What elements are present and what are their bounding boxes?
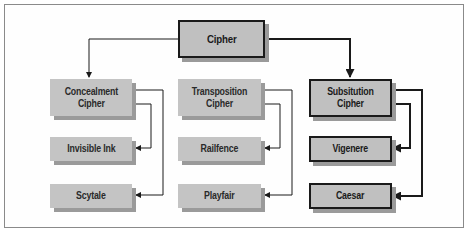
edge-transposition-railfence [265, 104, 280, 148]
node-substitution-cipher-label: Subsitution Cipher [327, 86, 373, 110]
node-scytale-label: Scytale [76, 190, 106, 202]
node-vigenere-label: Vigenere [333, 143, 369, 155]
node-invisible-ink-label: Invisible Ink [67, 143, 115, 155]
node-concealment-cipher: Concealment Cipher [50, 79, 132, 116]
edge-substitution-caesar [392, 90, 422, 196]
node-cipher: Cipher [178, 20, 265, 58]
node-vigenere: Vigenere [309, 136, 392, 162]
node-railfence: Railfence [178, 137, 261, 161]
node-transposition-cipher: Transposition Cipher [178, 79, 261, 116]
node-railfence-label: Railfence [201, 143, 239, 155]
node-caesar-label: Caesar [336, 190, 364, 202]
node-transposition-cipher-label: Transposition Cipher [192, 86, 247, 110]
edge-concealment-scytale [136, 90, 163, 195]
node-cipher-label: Cipher [207, 33, 237, 45]
node-substitution-cipher: Subsitution Cipher [309, 79, 392, 117]
node-scytale: Scytale [50, 184, 132, 208]
edge-transposition-playfair [265, 90, 292, 195]
edge-cipher-substitution [265, 39, 350, 77]
edge-concealment-invisible-ink [136, 104, 151, 148]
node-caesar: Caesar [309, 183, 392, 209]
edge-cipher-concealment [89, 39, 178, 77]
node-invisible-ink: Invisible Ink [50, 137, 132, 161]
edge-substitution-vigenere [392, 104, 410, 148]
node-playfair: Playfair [178, 184, 261, 208]
node-playfair-label: Playfair [204, 190, 234, 202]
node-concealment-cipher-label: Concealment Cipher [64, 86, 117, 110]
